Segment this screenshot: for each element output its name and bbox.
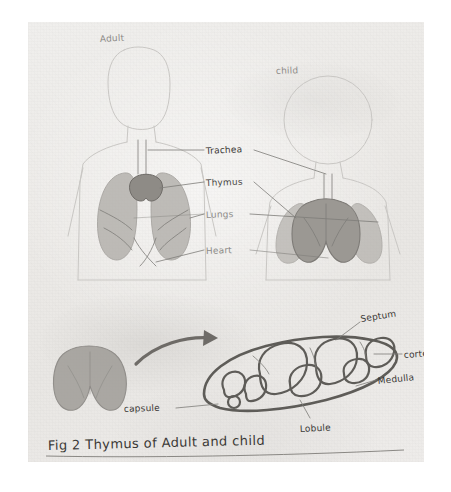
child-thymus: [292, 199, 360, 262]
scanned-drawing: Adult child Trachea Thymus Lungs Heart: [0, 0, 451, 492]
label-trachea: Trachea: [205, 144, 243, 156]
label-child: child: [276, 65, 299, 76]
drawing-canvas: Adult child Trachea Thymus Lungs Heart: [28, 22, 424, 462]
label-heart: Heart: [206, 245, 233, 256]
adult-trachea: [138, 140, 146, 174]
magnification-arrow: [136, 330, 218, 364]
label-septum: Septum: [360, 308, 397, 324]
figure-caption: Fig 2 Thymus of Adult and child: [48, 433, 265, 453]
label-cortex: cortex: [403, 348, 424, 360]
label-medulla: Medulla: [377, 372, 414, 386]
whole-thymus-organ: [54, 346, 127, 410]
child-trachea: [324, 174, 332, 200]
adult-heart: [134, 238, 156, 266]
label-adult: Adult: [100, 33, 125, 44]
thymus-cross-section: [204, 337, 397, 411]
label-capsule: capsule: [124, 403, 161, 414]
label-lobule: Lobule: [300, 422, 332, 434]
adult-body-outline: [68, 47, 216, 280]
adult-thymus: [130, 174, 163, 201]
label-lungs: Lungs: [206, 209, 234, 220]
label-thymus: Thymus: [205, 177, 243, 188]
paper-sheet: Adult child Trachea Thymus Lungs Heart: [28, 22, 424, 462]
